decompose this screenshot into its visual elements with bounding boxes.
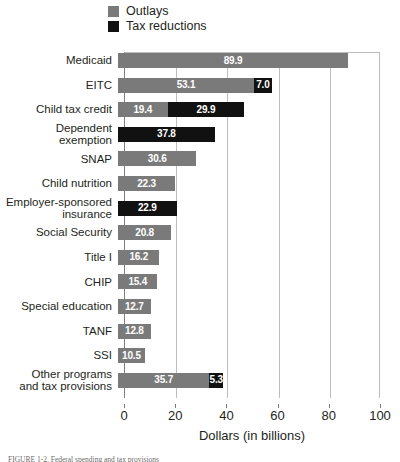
bar-row: Child tax credit19.429.9: [0, 102, 400, 117]
category-label: Dependent exemption: [0, 122, 118, 147]
bar-value-label: 30.6: [148, 154, 167, 164]
bar-segment-tax-reductions: 37.8: [118, 127, 215, 142]
bar-row: Medicaid89.9: [0, 53, 400, 68]
bar-row: Social Security20.8: [0, 225, 400, 240]
bar-row: TANF12.8: [0, 324, 400, 339]
chart-area: Medicaid89.9EITC53.17.0Child tax credit1…: [0, 46, 400, 406]
bar-segment-outlays: 19.4: [118, 102, 168, 117]
x-axis-label: Dollars (in billions): [124, 428, 380, 443]
x-tick-label-40: 40: [219, 408, 233, 423]
bar-rows: Medicaid89.9EITC53.17.0Child tax credit1…: [0, 46, 400, 398]
bar-segment-outlays: 20.8: [118, 225, 171, 240]
category-label: Other programsand tax provisions: [0, 368, 118, 392]
bar-row: Special education12.7: [0, 299, 400, 314]
bar-segments: 89.9: [118, 53, 400, 68]
category-label: Special education: [0, 300, 118, 313]
bar-segments: 10.5: [118, 348, 400, 363]
bar-row: SSI10.5: [0, 348, 400, 363]
chart-legend: OutlaysTax reductions: [108, 4, 207, 33]
x-tick-label-0: 0: [120, 408, 127, 423]
category-label: Title I: [0, 251, 118, 264]
bar-segments: 15.4: [118, 274, 400, 289]
category-label: Social Security: [0, 226, 118, 239]
x-tick-label-80: 80: [322, 408, 336, 423]
bar-segments: 22.3: [118, 176, 400, 191]
bar-row: Employer-sponsoredinsurance22.9: [0, 201, 400, 216]
bar-segments: 12.8: [118, 324, 400, 339]
bar-segment-tax-reductions: 5.3: [209, 373, 223, 388]
category-label: TANF: [0, 325, 118, 338]
legend-label-tax_reductions: Tax reductions: [126, 20, 207, 33]
bar-row: EITC53.17.0: [0, 78, 400, 93]
legend-swatch-outlays: [108, 6, 119, 17]
bar-segment-tax-reductions: 29.9: [168, 102, 245, 117]
bar-value-label: 12.8: [125, 326, 144, 336]
bar-value-label: 15.4: [128, 277, 147, 287]
bar-segments: 22.9: [118, 201, 400, 216]
bar-row: Other programsand tax provisions35.75.3: [0, 373, 400, 388]
bar-value-label: 10.5: [122, 351, 141, 361]
bar-segment-tax-reductions: 7.0: [254, 78, 272, 93]
bar-row: CHIP15.4: [0, 274, 400, 289]
bar-segment-outlays: 89.9: [118, 53, 348, 68]
category-label: CHIP: [0, 276, 118, 289]
category-label: Medicaid: [0, 54, 118, 67]
bar-value-label: 22.9: [138, 203, 157, 213]
bar-segment-outlays: 10.5: [118, 348, 145, 363]
category-label: Child nutrition: [0, 177, 118, 190]
figure-caption: FIGURE 1-2. Federal spending and tax pro…: [8, 455, 392, 462]
bar-segment-outlays: 53.1: [118, 78, 254, 93]
x-tick-label-100: 100: [369, 408, 391, 423]
bar-segments: 37.8: [118, 127, 400, 142]
bar-segment-outlays: 16.2: [118, 250, 159, 265]
legend-item-outlays: Outlays: [108, 4, 207, 18]
bar-segment-outlays: 30.6: [118, 151, 196, 166]
bar-value-label: 5.3: [210, 375, 223, 385]
legend-item-tax_reductions: Tax reductions: [108, 19, 207, 33]
bar-segment-outlays: 35.7: [118, 373, 209, 388]
bar-value-label: 53.1: [177, 80, 196, 90]
bar-segment-tax-reductions: 22.9: [118, 201, 177, 216]
category-label: Child tax credit: [0, 103, 118, 116]
category-label: SSI: [0, 349, 118, 362]
x-tick-label-20: 20: [168, 408, 182, 423]
bar-segment-outlays: 12.7: [118, 299, 151, 314]
legend-label-outlays: Outlays: [126, 5, 168, 18]
bar-segment-outlays: 15.4: [118, 274, 157, 289]
x-tick-label-60: 60: [270, 408, 284, 423]
bar-value-label: 20.8: [135, 228, 154, 238]
bar-value-label: 35.7: [154, 375, 173, 385]
bar-row: Dependent exemption37.8: [0, 127, 400, 142]
bar-segments: 53.17.0: [118, 78, 400, 93]
bar-segments: 12.7: [118, 299, 400, 314]
bar-value-label: 7.0: [256, 80, 269, 90]
x-axis: 020406080100: [124, 404, 380, 424]
category-label: SNAP: [0, 153, 118, 166]
category-label: EITC: [0, 79, 118, 92]
legend-swatch-tax_reductions: [108, 21, 119, 32]
bar-segments: 16.2: [118, 250, 400, 265]
bar-row: SNAP30.6: [0, 151, 400, 166]
bar-segment-outlays: 22.3: [118, 176, 175, 191]
bar-value-label: 12.7: [125, 302, 144, 312]
category-label: Employer-sponsoredinsurance: [0, 196, 118, 220]
bar-value-label: 16.2: [129, 252, 148, 262]
bar-value-label: 89.9: [224, 56, 243, 66]
bar-segments: 35.75.3: [118, 373, 400, 388]
bar-segment-outlays: 12.8: [118, 324, 151, 339]
bar-value-label: 29.9: [197, 105, 216, 115]
bar-value-label: 22.3: [137, 179, 156, 189]
bar-segments: 30.6: [118, 151, 400, 166]
bar-value-label: 19.4: [133, 105, 152, 115]
bar-row: Child nutrition22.3: [0, 176, 400, 191]
bar-value-label: 37.8: [157, 129, 176, 139]
bar-row: Title I16.2: [0, 250, 400, 265]
bar-segments: 19.429.9: [118, 102, 400, 117]
bar-segments: 20.8: [118, 225, 400, 240]
